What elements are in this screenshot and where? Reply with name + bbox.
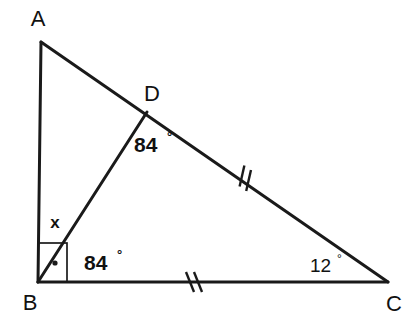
angle-label-c: 12 — [310, 255, 331, 276]
vertex-label-d: D — [144, 81, 160, 106]
angle-label-d: 84 — [134, 133, 158, 156]
vertex-label-c: C — [386, 291, 402, 316]
geometry-diagram: A B C D 84 ° 84 ° 12 ° x — [0, 0, 414, 324]
vertex-label-a: A — [31, 6, 46, 31]
right-angle-dot-icon — [52, 260, 57, 265]
degree-symbol-c-icon: ° — [337, 252, 342, 266]
unknown-angle-label-x: x — [50, 213, 60, 232]
geometry-figure-container: A B C D 84 ° 84 ° 12 ° x — [0, 0, 414, 324]
degree-symbol-dbc-icon: ° — [117, 247, 122, 262]
angle-label-dbc: 84 — [84, 251, 108, 274]
vertex-label-b: B — [23, 290, 38, 315]
degree-symbol-d-icon: ° — [167, 129, 172, 144]
segment-ac — [41, 42, 388, 282]
